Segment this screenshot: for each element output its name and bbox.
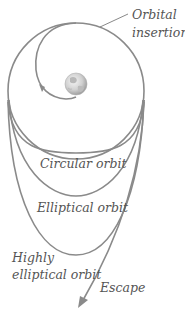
- circular-orbit-label: Circular orbit: [40, 156, 127, 171]
- insertion-arrowhead-icon: [39, 84, 45, 92]
- orbital-insertion-label-line1: Orbital: [132, 7, 177, 22]
- mid-elliptical-orbit-path: [8, 102, 144, 153]
- highly-elliptical-label-line2: elliptical orbit: [12, 267, 102, 282]
- orbital-insertion-leader: [100, 14, 128, 27]
- orbital-insertion-label-line2: insertion: [132, 25, 185, 40]
- elliptical-orbit-label: Elliptical orbit: [36, 200, 129, 215]
- escape-label: Escape: [99, 280, 145, 295]
- escape-arrowhead-icon: [78, 296, 88, 308]
- highly-elliptical-label-line1: Highly: [11, 250, 55, 265]
- elliptical-orbit-path: [9, 100, 143, 196]
- earth-globe-icon: [65, 73, 87, 95]
- orbit-diagram: Orbital insertion Circular orbit Ellipti…: [0, 0, 185, 310]
- highly-elliptical-orbit-path: [8, 100, 144, 255]
